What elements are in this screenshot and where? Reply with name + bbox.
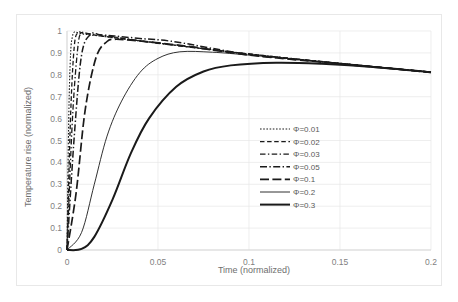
legend-label: Φ=0.02 [293,138,320,147]
x-tick-label: 0 [65,257,70,267]
legend-label: Φ=0.2 [293,188,316,197]
y-tick-label: 0.8 [50,70,62,80]
y-tick-label: 0.7 [50,92,62,102]
y-tick-label: 0.4 [50,157,62,167]
line-chart: 00.10.20.30.40.50.60.70.80.91 00.050.10.… [17,15,441,285]
y-tick-label: 0 [57,245,62,255]
y-tick-label: 0.5 [50,136,62,146]
legend: Φ=0.01Φ=0.02Φ=0.03Φ=0.05Φ=0.1Φ=0.2Φ=0.3 [260,125,320,210]
x-tick-label: 0.2 [425,257,437,267]
y-tick-label: 0.6 [50,114,62,124]
y-tick-label: 0.9 [50,48,62,58]
legend-label: Φ=0.03 [293,150,320,159]
legend-label: Φ=0.3 [293,201,316,210]
x-tick-label: 0.05 [150,257,167,267]
y-axis-tick-labels: 00.10.20.30.40.50.60.70.80.91 [50,26,62,255]
y-axis-title: Temperature rise (normalized) [23,87,33,207]
legend-label: Φ=0.1 [293,175,316,184]
y-tick-label: 0.3 [50,179,62,189]
y-tick-label: 0.1 [50,223,62,233]
x-tick-label: 0.15 [332,257,349,267]
y-tick-label: 0.2 [50,201,62,211]
chart-container: 00.10.20.30.40.50.60.70.80.91 00.050.10.… [16,14,442,286]
legend-label: Φ=0.05 [293,163,320,172]
legend-label: Φ=0.01 [293,125,320,134]
y-tick-label: 1 [57,26,62,36]
x-axis-title: Time (normalized) [218,265,290,275]
